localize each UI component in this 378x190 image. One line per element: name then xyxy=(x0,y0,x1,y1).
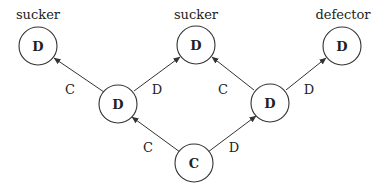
diagram-canvas: C D C D C D D D D D D C xyxy=(0,0,378,190)
edge-label-root-to-mid-right: D xyxy=(229,140,239,155)
node-label: D xyxy=(112,97,123,112)
node-root: C xyxy=(175,144,213,182)
outcome-labels: sucker sucker defector xyxy=(16,7,371,22)
node-leaf-right: D xyxy=(323,27,361,65)
node-label: D xyxy=(336,39,347,54)
node-leaf-left: D xyxy=(19,27,57,65)
edge-label-mid-right-to-leaf-middle: C xyxy=(218,82,228,97)
edge-mid-left-to-leaf-left xyxy=(54,58,104,92)
node-mid-left: D xyxy=(99,85,137,123)
outcome-label-leaf-left: sucker xyxy=(16,7,61,22)
node-mid-right: D xyxy=(251,84,289,122)
outcome-label-leaf-middle: sucker xyxy=(174,7,219,22)
node-label: D xyxy=(190,38,201,53)
node-label: D xyxy=(264,96,275,111)
edge-root-to-mid-left xyxy=(132,117,180,152)
node-leaf-middle: D xyxy=(177,26,215,64)
node-label: D xyxy=(32,39,43,54)
edge-label-mid-right-to-leaf-right: D xyxy=(304,82,314,97)
node-label: C xyxy=(189,156,199,171)
edge-label-mid-left-to-leaf-left: C xyxy=(65,82,75,97)
outcome-label-leaf-right: defector xyxy=(315,7,371,22)
edge-label-mid-left-to-leaf-middle: D xyxy=(152,82,162,97)
edge-label-root-to-mid-left: C xyxy=(143,140,153,155)
game-tree-diagram: C D C D C D D D D D D C xyxy=(0,0,378,190)
